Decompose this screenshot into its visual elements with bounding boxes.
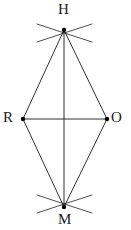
vertex-label-o: O <box>111 110 122 125</box>
vertex-dots <box>21 28 109 209</box>
vertex-label-h: H <box>58 2 69 17</box>
rhombus-sides <box>23 30 107 207</box>
vertex-dot-O <box>105 117 109 121</box>
vertex-label-m: M <box>58 212 71 227</box>
side-MR <box>23 119 64 207</box>
vertex-dot-R <box>21 117 25 121</box>
construction-arcs-top <box>37 24 92 42</box>
rhombus-diagonals <box>23 30 107 207</box>
side-OM <box>64 119 107 207</box>
vertex-dot-H <box>62 28 66 32</box>
geometry-figure-canvas: H R O M <box>0 0 131 230</box>
vertex-dot-M <box>62 205 66 209</box>
vertex-label-r: R <box>3 110 13 125</box>
side-HO <box>64 30 107 119</box>
side-RH <box>23 30 64 119</box>
